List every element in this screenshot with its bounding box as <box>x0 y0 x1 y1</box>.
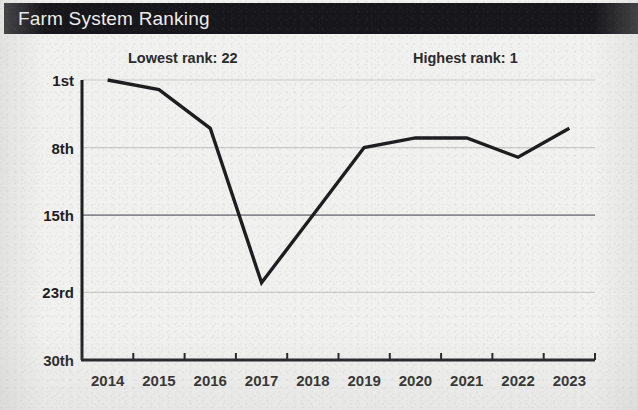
x-tick-label-2015: 2015 <box>142 372 175 389</box>
lowest-rank-annotation: Lowest rank: 22 <box>128 50 238 66</box>
y-tick-label-15th: 15th <box>43 207 74 224</box>
y-tick-label-8th: 8th <box>52 139 75 156</box>
chart-plot-area <box>0 0 638 410</box>
x-tick-label-2020: 2020 <box>399 372 432 389</box>
y-axis-labels: 1st8th15th23rd30th <box>0 0 74 410</box>
x-tick-label-2014: 2014 <box>91 372 124 389</box>
y-tick-label-23rd: 23rd <box>42 284 74 301</box>
x-tick-label-2016: 2016 <box>194 372 227 389</box>
highest-rank-annotation: Highest rank: 1 <box>413 50 518 66</box>
rank-trend-line <box>108 80 570 283</box>
y-tick-label-30th: 30th <box>43 352 74 369</box>
x-tick-label-2021: 2021 <box>450 372 483 389</box>
gridlines <box>82 80 595 292</box>
farm-system-ranking-chart-card: Farm System Ranking Lowest rank: 22 High… <box>0 0 638 410</box>
axis-lines <box>81 80 595 360</box>
x-tick-label-2022: 2022 <box>501 372 534 389</box>
x-tick-label-2017: 2017 <box>245 372 278 389</box>
page-title: Farm System Ranking <box>18 7 210 31</box>
x-tick-label-2019: 2019 <box>347 372 380 389</box>
x-tick-label-2018: 2018 <box>296 372 329 389</box>
x-tick-label-2023: 2023 <box>553 372 586 389</box>
chart-header-bar: Farm System Ranking <box>4 3 638 34</box>
y-tick-label-1st: 1st <box>52 72 74 89</box>
